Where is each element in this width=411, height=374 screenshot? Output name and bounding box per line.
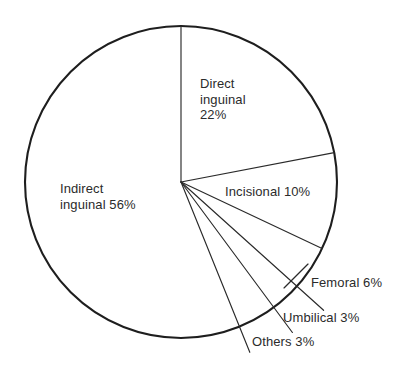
pie-label-others: Others 3%	[252, 334, 314, 350]
pie-label-femoral: Femoral 6%	[311, 275, 382, 291]
pie-chart-figure: Direct inguinal 22% Indirect inguinal 56…	[0, 0, 411, 374]
pie-label-indirect-inguinal: Indirect inguinal 56%	[60, 181, 136, 212]
pie-label-incisional: Incisional 10%	[225, 184, 310, 200]
pie-label-direct-inguinal: Direct inguinal 22%	[200, 76, 246, 123]
pie-label-umbilical: Umbilical 3%	[283, 310, 359, 326]
